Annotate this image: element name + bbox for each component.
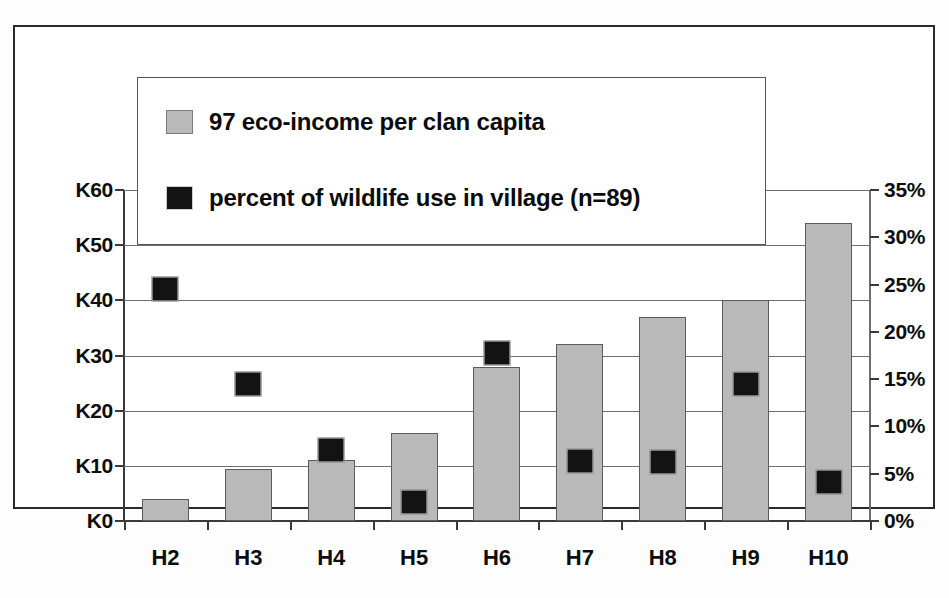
x-tick-mark xyxy=(290,521,292,530)
left-axis-tick-label: K0 xyxy=(87,509,113,533)
left-axis-tick-label: K30 xyxy=(75,344,113,368)
right-axis-tick-label: 30% xyxy=(884,225,925,249)
x-axis-tick-label: H2 xyxy=(151,545,179,571)
right-tick-mark xyxy=(870,425,879,427)
x-axis-tick-label: H9 xyxy=(732,545,760,571)
data-point-marker[interactable] xyxy=(152,277,179,302)
left-axis-tick-label: K40 xyxy=(75,288,113,312)
left-tick-mark xyxy=(115,410,124,412)
x-axis-tick-label: H8 xyxy=(649,545,677,571)
right-axis-tick-label: 15% xyxy=(884,367,925,391)
x-tick-mark xyxy=(373,521,375,530)
legend-label-eco-income: 97 eco-income per clan capita xyxy=(209,108,545,136)
x-tick-mark xyxy=(456,521,458,530)
right-axis-tick-label: 25% xyxy=(884,273,925,297)
bar[interactable] xyxy=(722,300,769,521)
right-tick-mark xyxy=(870,284,879,286)
data-point-marker[interactable] xyxy=(235,371,262,396)
data-point-marker[interactable] xyxy=(815,470,842,495)
right-tick-mark xyxy=(870,473,879,475)
left-tick-mark xyxy=(115,244,124,246)
x-tick-mark xyxy=(124,521,126,530)
category-column: H10 xyxy=(787,190,870,521)
right-tick-mark xyxy=(870,331,879,333)
bar[interactable] xyxy=(225,469,272,521)
right-tick-mark xyxy=(870,236,879,238)
marker-swatch-icon xyxy=(166,186,193,210)
left-tick-mark xyxy=(115,299,124,301)
bar[interactable] xyxy=(639,317,686,521)
right-axis-tick-label: 35% xyxy=(884,178,925,202)
left-axis-tick-label: K50 xyxy=(75,233,113,257)
right-axis-tick-label: 10% xyxy=(884,414,925,438)
left-axis-tick-label: K20 xyxy=(75,399,113,423)
x-axis-tick-label: H4 xyxy=(317,545,345,571)
bar[interactable] xyxy=(473,367,520,521)
left-tick-mark xyxy=(115,355,124,357)
right-axis-tick-label: 5% xyxy=(884,462,914,486)
chart-page: K0K10K20K30K40K50K60 0%5%10%15%20%25%30%… xyxy=(0,0,949,598)
left-axis-tick-label: K60 xyxy=(75,178,113,202)
right-axis-tick-label: 20% xyxy=(884,320,925,344)
x-tick-mark xyxy=(621,521,623,530)
legend-item-wildlife-use: percent of wildlife use in village (n=89… xyxy=(166,184,640,212)
left-tick-mark xyxy=(115,189,124,191)
left-tick-mark xyxy=(115,465,124,467)
legend-label-wildlife-use: percent of wildlife use in village (n=89… xyxy=(209,184,640,212)
x-axis-tick-label: H6 xyxy=(483,545,511,571)
x-tick-mark xyxy=(207,521,209,530)
x-tick-mark xyxy=(787,521,789,530)
bar-swatch-icon xyxy=(166,110,193,134)
data-point-marker[interactable] xyxy=(649,450,676,475)
data-point-marker[interactable] xyxy=(732,371,759,396)
bar[interactable] xyxy=(308,460,355,521)
left-axis-tick-label: K10 xyxy=(75,454,113,478)
bar[interactable] xyxy=(142,499,189,521)
data-point-marker[interactable] xyxy=(318,438,345,463)
x-tick-mark xyxy=(704,521,706,530)
right-tick-mark xyxy=(870,189,879,191)
x-axis-tick-label: H7 xyxy=(566,545,594,571)
right-tick-mark xyxy=(870,378,879,380)
x-axis-tick-label: H3 xyxy=(234,545,262,571)
right-axis-tick-label: 0% xyxy=(884,509,914,533)
bar[interactable] xyxy=(556,344,603,521)
data-point-marker[interactable] xyxy=(401,490,428,515)
legend-item-eco-income: 97 eco-income per clan capita xyxy=(166,108,545,136)
data-point-marker[interactable] xyxy=(566,449,593,474)
x-tick-mark xyxy=(538,521,540,530)
chart-legend: 97 eco-income per clan capita percent of… xyxy=(137,77,766,245)
left-tick-mark xyxy=(115,520,124,522)
chart-frame: K0K10K20K30K40K50K60 0%5%10%15%20%25%30%… xyxy=(13,25,935,509)
x-axis-tick-label: H10 xyxy=(808,545,848,571)
x-tick-mark xyxy=(870,521,872,530)
data-point-marker[interactable] xyxy=(483,340,510,365)
x-axis-tick-label: H5 xyxy=(400,545,428,571)
